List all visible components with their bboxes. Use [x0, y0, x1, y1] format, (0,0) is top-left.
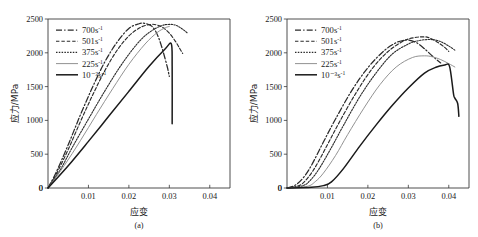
legend-label: 375s-1	[82, 47, 103, 57]
x-tick-label: 0.03	[401, 192, 416, 201]
curve-225s-1	[48, 26, 169, 188]
y-tick-label: 1500	[26, 83, 43, 92]
legend-label: 375s-1	[321, 47, 342, 57]
panel-caption: (a)	[134, 221, 143, 230]
panel-b: 0500100015002000250000.010.020.030.04700…	[239, 0, 478, 237]
y-tick-label: 500	[269, 150, 282, 159]
x-tick-label: 0.02	[361, 192, 376, 201]
x-tick-label: 0	[39, 184, 43, 193]
legend-label: 10⁻³s-1	[321, 70, 345, 80]
y-tick-label: 2500	[26, 15, 43, 24]
curve-700s-1	[287, 40, 441, 188]
x-axis-title: 应变	[130, 206, 148, 217]
curve-10-3s-1	[48, 43, 172, 188]
legend-label: 501s-1	[321, 36, 342, 46]
y-tick-label: 2000	[265, 49, 282, 58]
curve-501s-1	[48, 24, 183, 188]
x-tick-label: 0.01	[320, 192, 335, 201]
legend-label: 10⁻³s-1	[82, 70, 106, 80]
y-tick-label: 1000	[265, 116, 282, 125]
y-tick-label: 1500	[265, 83, 282, 92]
x-tick-label: 0.02	[122, 192, 137, 201]
x-tick-label: 0.03	[162, 192, 177, 201]
y-axis-title: 应力/MPa	[248, 84, 259, 123]
x-tick-label: 0	[278, 184, 282, 193]
plot-frame	[287, 19, 469, 188]
x-axis-title: 应变	[369, 206, 387, 217]
plot-frame	[48, 19, 230, 188]
panel-caption: (b)	[373, 221, 383, 230]
curve-10-3s-1	[287, 64, 459, 188]
curve-375s-1	[287, 40, 455, 188]
legend-label: 225s-1	[82, 59, 103, 69]
y-tick-label: 500	[30, 150, 43, 159]
y-tick-label: 1000	[26, 116, 43, 125]
panel-a: 0500100015002000250000.010.020.030.04700…	[0, 0, 239, 237]
stress-strain-figure: 0500100015002000250000.010.020.030.04700…	[0, 0, 478, 237]
curve-225s-1	[287, 56, 455, 188]
y-tick-label: 2500	[265, 15, 282, 24]
legend-label: 700s-1	[82, 25, 103, 35]
x-tick-label: 0.01	[81, 192, 96, 201]
x-tick-label: 0.04	[441, 192, 456, 201]
legend-label: 225s-1	[321, 59, 342, 69]
legend-label: 501s-1	[82, 36, 103, 46]
y-tick-label: 2000	[26, 49, 43, 58]
y-axis-title: 应力/MPa	[9, 84, 20, 123]
legend-label: 700s-1	[321, 25, 342, 35]
x-tick-label: 0.04	[202, 192, 217, 201]
